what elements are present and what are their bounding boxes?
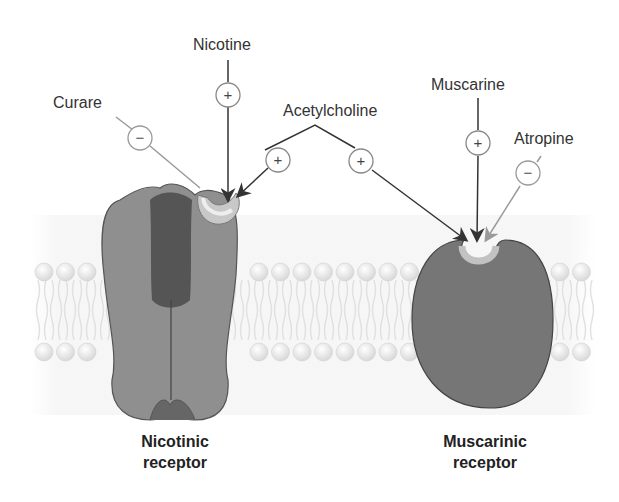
svg-text:+: + <box>357 152 366 169</box>
nicotinic-receptor-label: Nicotinic receptor <box>120 431 230 473</box>
muscarine-label: Muscarine <box>431 76 505 94</box>
svg-text:−: − <box>136 129 145 146</box>
nicotinic-receptor-label-line1: Nicotinic <box>120 431 230 452</box>
nicotinic-receptor-shape <box>102 184 239 420</box>
nicotine-label: Nicotine <box>193 36 251 54</box>
svg-text:−: − <box>524 164 533 181</box>
svg-text:+: + <box>274 151 283 168</box>
acetylcholine-label: Acetylcholine <box>283 102 377 120</box>
svg-text:+: + <box>474 134 483 151</box>
muscarinic-receptor-shape <box>412 240 553 408</box>
atropine-label: Atropine <box>514 130 574 148</box>
nicotinic-receptor-label-line2: receptor <box>120 452 230 473</box>
diagram-canvas: − + + + + − <box>0 0 619 502</box>
muscarinic-receptor-label-line2: receptor <box>420 452 550 473</box>
curare-label: Curare <box>53 94 102 112</box>
nicotine-pathway: + <box>216 60 240 200</box>
muscarinic-receptor-label-line1: Muscarinic <box>420 431 550 452</box>
svg-text:+: + <box>224 86 233 103</box>
curare-pathway: − <box>116 117 200 188</box>
muscarinic-receptor-label: Muscarinic receptor <box>420 431 550 473</box>
